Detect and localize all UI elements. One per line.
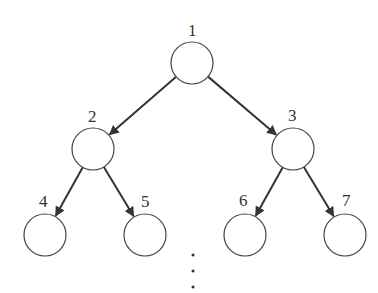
- node-label: 7: [342, 191, 351, 210]
- node-circle: [224, 214, 266, 256]
- tree-node-2: 2: [72, 107, 114, 170]
- node-circle: [324, 214, 366, 256]
- node-circle: [24, 214, 66, 256]
- node-circle: [124, 214, 166, 256]
- binary-tree-diagram: 1234567: [0, 0, 378, 293]
- edge-1-2: [110, 77, 177, 135]
- tree-node-1: 1: [171, 21, 213, 84]
- node-circle: [72, 128, 114, 170]
- tree-node-4: 4: [24, 192, 66, 256]
- edge-1-3: [208, 77, 276, 135]
- node-label: 1: [188, 21, 197, 40]
- node-circle: [272, 128, 314, 170]
- tree-svg: 1234567: [0, 0, 378, 293]
- tree-node-6: 6: [224, 191, 266, 256]
- node-label: 5: [141, 192, 150, 211]
- tree-node-3: 3: [272, 106, 314, 170]
- edge-2-5: [104, 167, 134, 216]
- edge-3-6: [256, 167, 283, 215]
- node-label: 2: [88, 107, 97, 126]
- node-circle: [171, 42, 213, 84]
- continuation-dots: [192, 254, 195, 289]
- tree-node-5: 5: [124, 192, 166, 256]
- edge-3-7: [304, 167, 334, 216]
- node-label: 4: [39, 192, 48, 211]
- tree-node-7: 7: [324, 191, 366, 256]
- node-label: 6: [239, 191, 248, 210]
- edge-2-4: [56, 167, 83, 215]
- node-label: 3: [288, 106, 297, 125]
